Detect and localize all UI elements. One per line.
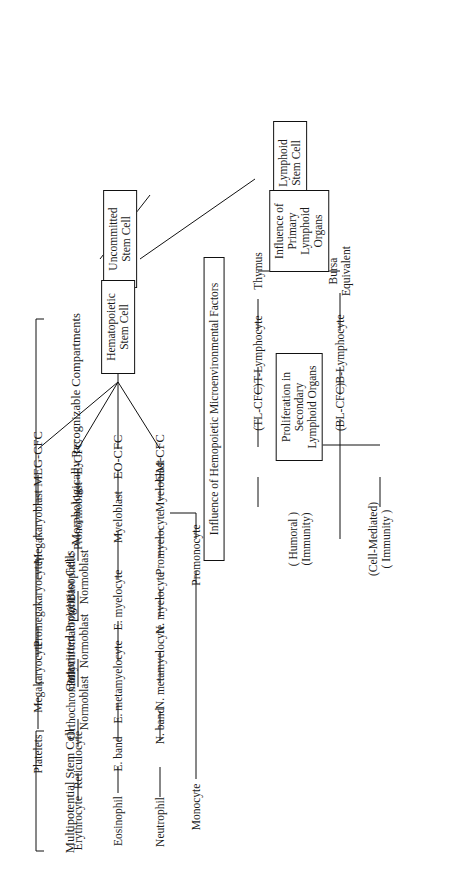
annotation-hemopoietic-influence: Influence of Hemopoietic Microenvironmen… xyxy=(204,257,225,561)
node-cell-mediated-immunity[interactable]: (Cell-Mediated) ( Immunity ) xyxy=(367,502,393,576)
node-megakaryocyte[interactable]: Megakaryocyte xyxy=(32,641,45,713)
node-monocyte[interactable]: Monocyte xyxy=(190,784,203,831)
node-t-lymphocyte[interactable]: T-Lymphocyte xyxy=(252,315,265,382)
node-n-band[interactable]: N. band xyxy=(154,708,167,744)
node-reticulocyte[interactable]: Reticulocyte xyxy=(72,731,85,789)
node-hematopoietic-stem-cell[interactable]: Hematopoietic Stem Cell xyxy=(101,280,135,374)
node-eosinophil[interactable]: Eosinophil xyxy=(112,796,125,846)
node-e-band[interactable]: E. band xyxy=(112,736,125,771)
node-e-metamyelocyte[interactable]: E. metamyelocyte xyxy=(112,640,125,723)
node-meg-cfc[interactable]: MEG-CFC xyxy=(31,431,45,487)
node-e-myelocyte[interactable]: E. myelocyte xyxy=(112,570,125,631)
node-tl-cfc[interactable]: (TL-CFC) xyxy=(252,383,265,430)
node-n-metamyelocyte[interactable]: N. metamyelocyte xyxy=(154,625,167,709)
annotation-secondary-lymphoid-organs: Proliferation in Secondary Lymphoid Orga… xyxy=(276,353,323,461)
node-b-lymphocyte[interactable]: B-Lymphocyte xyxy=(334,315,347,384)
node-promonocyte[interactable]: Promonocyte xyxy=(190,524,203,585)
node-bl-cfc[interactable]: (BL-CFC) xyxy=(334,383,347,431)
node-thymus[interactable]: Thymus xyxy=(252,252,265,290)
node-myeloblast-eo[interactable]: Myeloblast xyxy=(112,491,125,543)
node-neutrophil[interactable]: Neutrophil xyxy=(154,797,167,847)
node-uncommitted-stem-cell[interactable]: Uncommitted Stem Cell xyxy=(103,190,137,288)
node-e-cfc[interactable]: E-CFC xyxy=(71,439,85,474)
node-orthochromatic-normoblast[interactable]: Orthochromatic Normoblast xyxy=(65,667,91,740)
node-promyelocyte[interactable]: Promyelocyte xyxy=(154,511,167,575)
node-humoral-immunity[interactable]: ( Humoral ) (Immunity) xyxy=(287,512,313,566)
node-platelets[interactable]: Platelets xyxy=(32,735,45,774)
node-pronormoblast[interactable]: Pronormoblast xyxy=(72,482,85,550)
node-eo-cfc[interactable]: EO-CFC xyxy=(111,435,125,479)
annotation-primary-lymphoid-organs: Influence of Primary Lymphoid Organs xyxy=(269,190,329,272)
node-promegakaryocyte[interactable]: Promegakaryocyte xyxy=(32,561,45,647)
node-myeloblast-gm[interactable]: Myeloblast xyxy=(154,460,167,512)
node-bursa-equivalent[interactable]: Bursa Equivalent xyxy=(327,246,353,296)
diagram-canvas: Multipotential Stem Cell Committed Proge… xyxy=(0,0,474,879)
node-erythrocyte[interactable]: Erythrocyte xyxy=(72,796,85,850)
node-megakaryoblast[interactable]: Megakaryoblast xyxy=(32,490,45,564)
